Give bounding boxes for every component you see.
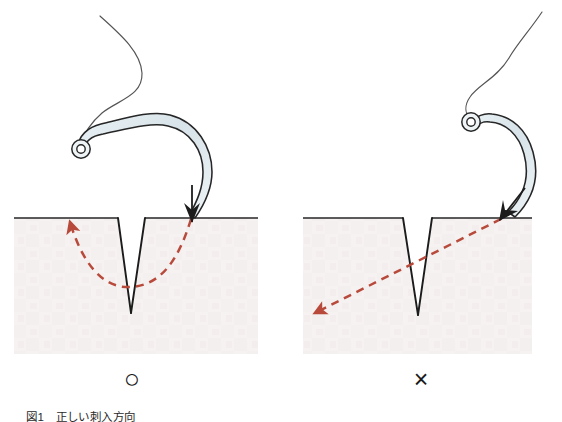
suture-needle-right bbox=[462, 113, 536, 217]
suture-thread-right bbox=[466, 12, 542, 122]
figure-illustration bbox=[0, 0, 562, 422]
verdict-mark-correct: ○ bbox=[104, 366, 160, 393]
suture-needle-left bbox=[72, 113, 212, 218]
tissue-block-right bbox=[303, 218, 532, 354]
figure-caption: 図1 正しい刺入方向 bbox=[26, 408, 326, 422]
panel-correct bbox=[14, 16, 258, 354]
verdict-mark-incorrect: × bbox=[393, 367, 449, 392]
panel-incorrect bbox=[303, 12, 542, 354]
surgical-suture-figure: ○ × 図1 正しい刺入方向 bbox=[0, 0, 562, 422]
